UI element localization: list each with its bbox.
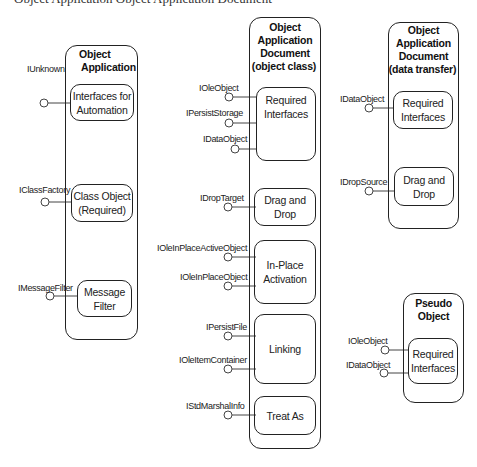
lollipop-ioleobject-pseudo-icon bbox=[381, 346, 389, 354]
label-idataobject-pseudo: IDataObject bbox=[346, 360, 390, 370]
label-ioleinplaceobject: IOleInPlaceObject bbox=[180, 272, 247, 282]
lollipop-idropsource-icon bbox=[365, 187, 373, 195]
lollipop-idataobject-icon bbox=[231, 145, 239, 153]
document-object-class-title: Object Application Document (object clas… bbox=[250, 21, 320, 73]
label-ioleobject: IOleObject bbox=[199, 83, 239, 93]
document-object-class-container: Object Application Document (object clas… bbox=[249, 17, 321, 449]
drag-and-drop-source-box[interactable]: Drag and Drop bbox=[394, 167, 454, 206]
label-idropsource: IDropSource bbox=[340, 177, 387, 187]
lollipop-ipersistfile-icon bbox=[224, 332, 232, 340]
required-interfaces-dt-box[interactable]: Required Interfaces bbox=[393, 91, 453, 129]
label-imessagefilter: IMessageFilter bbox=[18, 283, 73, 293]
label-ipersistfile: IPersistFile bbox=[206, 322, 247, 332]
label-ioleobject-pseudo: IOleObject bbox=[348, 336, 388, 346]
interfaces-for-automation-box[interactable]: Interfaces for Automation bbox=[70, 84, 134, 121]
label-istdmarshalinfo: IStdMarshalInfo bbox=[186, 401, 245, 411]
lollipop-idroptarget-icon bbox=[224, 203, 232, 211]
treat-as-box[interactable]: Treat As bbox=[254, 396, 316, 435]
label-idataobject: IDataObject bbox=[203, 134, 247, 144]
lollipop-ioleinplaceobject-icon bbox=[224, 282, 232, 290]
lollipop-ioleobject-icon bbox=[225, 93, 233, 101]
pseudo-object-title: Pseudo Object bbox=[404, 297, 463, 323]
lollipop-idataobject-pseudo-icon bbox=[380, 369, 388, 377]
linking-box[interactable]: Linking bbox=[254, 314, 316, 384]
lollipop-imessagefilter-icon bbox=[46, 292, 54, 300]
label-ioleinplaceactiveobject: IOleInPlaceActiveObject bbox=[157, 243, 247, 253]
message-filter-box[interactable]: Message Filter bbox=[77, 280, 132, 317]
lollipop-istdmarshalinfo-icon bbox=[224, 411, 232, 419]
lollipop-ioleinplaceactiveobject-icon bbox=[224, 253, 232, 261]
label-idroptarget: IDropTarget bbox=[200, 193, 244, 203]
document-data-transfer-title: Object Application Document (data transf… bbox=[389, 24, 458, 76]
drag-and-drop-target-box[interactable]: Drag and Drop bbox=[254, 188, 316, 226]
required-interfaces-box[interactable]: Required Interfaces bbox=[256, 87, 316, 161]
lollipop-idataobject-dt-icon bbox=[365, 104, 373, 112]
in-place-activation-box[interactable]: In-Place Activation bbox=[254, 240, 316, 304]
class-object-box[interactable]: Class Object (Required) bbox=[71, 184, 133, 222]
label-iunknown: IUnknown bbox=[27, 64, 65, 74]
label-idataobject-dt: IDataObject bbox=[340, 94, 384, 104]
lollipop-ioleitemcontainer-icon bbox=[224, 365, 232, 373]
lollipop-iunknown-icon bbox=[40, 99, 48, 107]
label-iclassfactory: IClassFactory bbox=[19, 185, 70, 195]
object-application-title: Object Application bbox=[66, 48, 137, 74]
required-interfaces-pseudo-box[interactable]: Required Interfaces bbox=[408, 338, 458, 384]
label-ioleitemcontainer: IOleItemContainer bbox=[179, 355, 247, 365]
lollipop-ipersiststorage-icon bbox=[225, 119, 233, 127]
lollipop-iclassfactory-icon bbox=[41, 198, 49, 206]
label-ipersiststorage: IPersistStorage bbox=[186, 108, 243, 118]
